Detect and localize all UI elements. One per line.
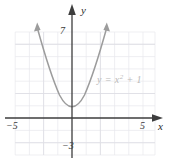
x-axis-label: x [158, 121, 163, 132]
y-axis-tick-neg3: −3 [62, 141, 74, 151]
coordinate-plane-svg [0, 0, 170, 162]
equation-lhs: y = x [97, 74, 120, 85]
y-axis-arrow [68, 4, 76, 15]
x-axis-tick-neg5: −5 [6, 121, 18, 131]
y-axis-label: y [81, 5, 86, 16]
graph-figure: 7 −3 −5 5 y x y = x2 + 1 [0, 0, 170, 162]
equation-annotation: y = x2 + 1 [97, 75, 142, 85]
curve-arrow-left [34, 23, 41, 32]
equation-rhs: + 1 [124, 74, 142, 85]
y-axis-tick-7: 7 [60, 26, 65, 36]
x-axis-tick-5: 5 [140, 121, 145, 131]
curve-arrow-right [103, 23, 110, 32]
